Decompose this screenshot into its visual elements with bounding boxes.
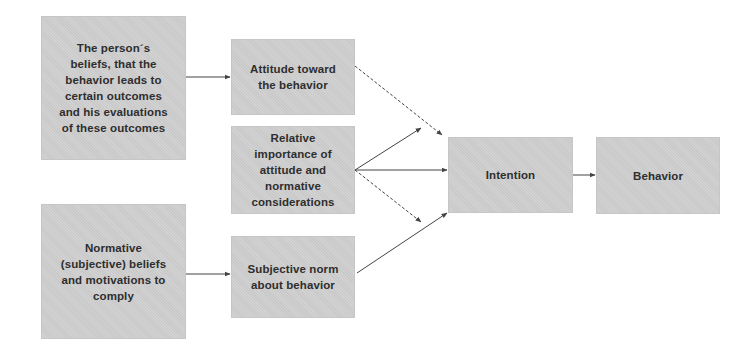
node-intention: Intention [448, 137, 573, 213]
node-behavior-label: Behavior [633, 168, 683, 184]
edge-subjective-norm-to-intention [357, 213, 447, 273]
node-subjective-norm: Subjective norm about behavior [231, 236, 355, 318]
node-attitude: Attitude toward the behavior [231, 39, 355, 115]
node-intention-label: Intention [486, 167, 535, 183]
edge-attitude-to-intention [355, 66, 442, 135]
edge-relative-to-upper [355, 128, 421, 170]
edge-relative-to-lower [355, 170, 421, 222]
node-relative-importance: Relative importance of attitude and norm… [231, 126, 355, 214]
node-beliefs-outcomes-label: The person´s beliefs, that the behavior … [59, 40, 168, 136]
node-subjective-norm-label: Subjective norm about behavior [248, 261, 339, 293]
node-behavior: Behavior [596, 137, 720, 214]
node-normative-beliefs-label: Normative (subjective) beliefs and motiv… [61, 240, 167, 304]
diagram-canvas: The person´s beliefs, that the behavior … [0, 0, 753, 352]
node-attitude-label: Attitude toward the behavior [250, 61, 336, 93]
node-normative-beliefs: Normative (subjective) beliefs and motiv… [41, 204, 186, 339]
node-relative-importance-label: Relative importance of attitude and norm… [251, 130, 334, 210]
node-beliefs-outcomes: The person´s beliefs, that the behavior … [41, 16, 186, 160]
